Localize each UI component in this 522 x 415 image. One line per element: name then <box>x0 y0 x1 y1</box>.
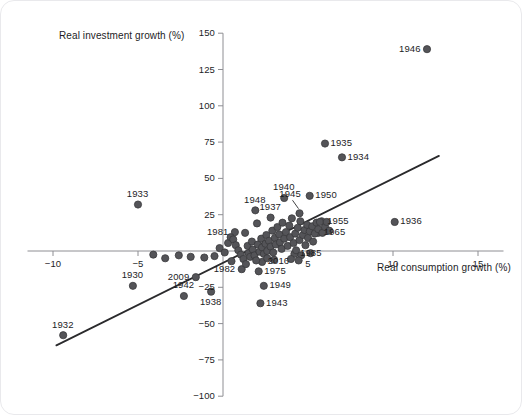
y-tick-label: 100 <box>173 101 215 111</box>
point-label-1933: 1933 <box>127 189 149 199</box>
y-tick-label: 25 <box>173 210 215 220</box>
point-label-1934: 1934 <box>348 152 370 162</box>
point-label-1938: 1938 <box>200 297 222 307</box>
y-tick-label: −100 <box>173 391 215 401</box>
point-label-1955: 1955 <box>327 216 349 226</box>
point-label-1943: 1943 <box>266 298 288 308</box>
point-label-1975: 1975 <box>264 266 286 276</box>
point-label-1932: 1932 <box>52 320 74 330</box>
point-label-1981: 1981 <box>207 227 229 237</box>
point-label-1937: 1937 <box>259 202 281 212</box>
point-label-1946: 1946 <box>399 44 421 54</box>
point-label-1950: 1950 <box>315 190 337 200</box>
x-tick-label: 5 <box>292 259 324 269</box>
point-label-1965: 1965 <box>324 227 346 237</box>
point-label-1982: 1982 <box>214 264 236 274</box>
point-label-1936: 1936 <box>400 216 422 226</box>
y-tick-label: −50 <box>173 319 215 329</box>
point-label-1935: 1935 <box>331 138 353 148</box>
label-leader-lines <box>293 200 299 208</box>
y-tick-label: 75 <box>173 137 215 147</box>
point-label-1940: 1940 <box>273 182 295 192</box>
axes <box>28 33 504 396</box>
x-axis-title: Real consumption growth (%) <box>377 263 511 273</box>
data-points <box>60 46 431 339</box>
point-label-1942: 1942 <box>173 280 195 290</box>
y-tick-label: 125 <box>173 65 215 75</box>
y-tick-label: 50 <box>173 173 215 183</box>
x-tick-label: −5 <box>122 259 154 269</box>
y-axis-title: Real investment growth (%) <box>59 31 184 41</box>
point-label-1985: 1985 <box>300 248 322 258</box>
point-label-1930: 1930 <box>122 270 144 280</box>
y-tick-label: −75 <box>173 355 215 365</box>
point-label-1949: 1949 <box>269 280 291 290</box>
x-tick-label: −10 <box>37 259 69 269</box>
chart-figure: −10−551015−100−75−50−2525507510012515019… <box>0 0 522 415</box>
